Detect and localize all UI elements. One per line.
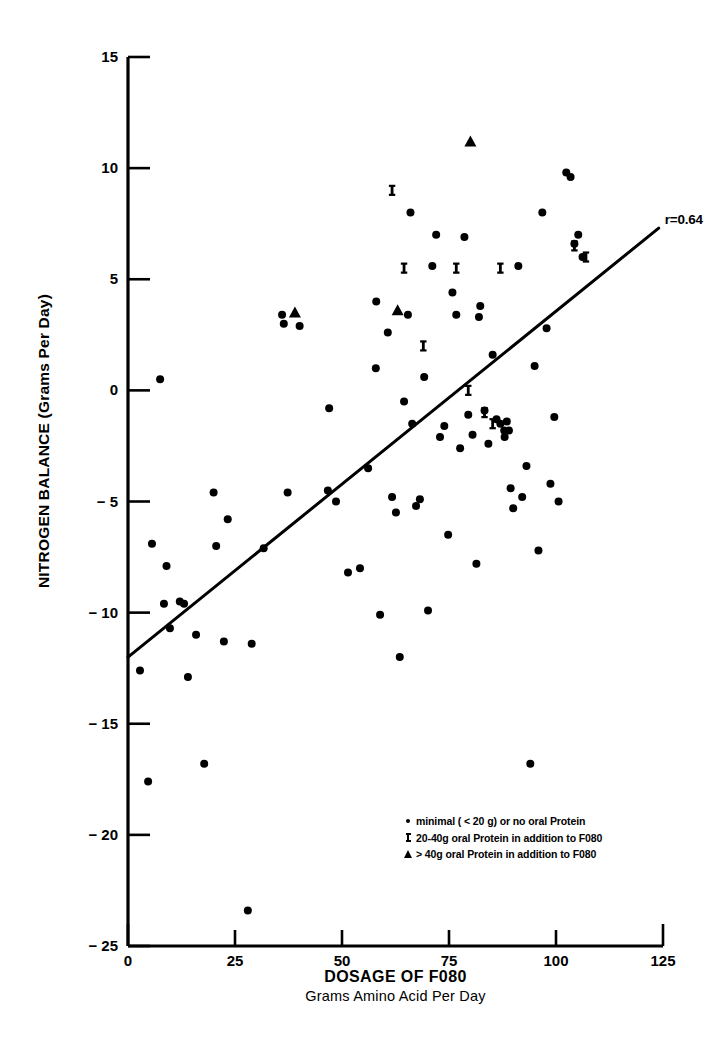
x-tick-label: 125: [633, 952, 693, 969]
x-tick-label: 0: [98, 952, 158, 969]
regression-line: [128, 228, 659, 657]
data-point-dot: [148, 540, 156, 548]
data-point-dot: [440, 422, 448, 430]
data-point-dot: [376, 611, 384, 619]
data-point-dot: [546, 480, 554, 488]
data-point-dot: [384, 329, 392, 337]
data-point-x: [420, 340, 426, 351]
data-point-x: [401, 263, 407, 274]
data-point-dot: [526, 760, 534, 768]
data-point-dot: [388, 493, 396, 501]
x-tick-label: 25: [205, 952, 265, 969]
data-point-dot: [484, 440, 492, 448]
data-point-dot: [476, 302, 484, 310]
data-point-dot: [400, 397, 408, 405]
correlation-annotation: r=0.64: [665, 212, 703, 227]
data-point-dot: [166, 624, 174, 632]
legend-x-icon: [400, 833, 416, 842]
y-tick-label: 5: [40, 270, 118, 287]
data-point-dot: [432, 231, 440, 239]
data-point-dot: [538, 209, 546, 217]
data-point-dot: [460, 233, 468, 241]
data-point-triangle: [289, 307, 301, 318]
data-point-x: [489, 418, 495, 429]
data-point-dot: [531, 362, 539, 370]
legend-label-dot: minimal ( < 20 g) or no oral Protein: [416, 815, 585, 827]
data-point-dot: [501, 433, 509, 441]
data-point-triangle: [392, 304, 404, 315]
data-point-dot: [356, 564, 364, 572]
data-point-dot: [420, 373, 428, 381]
data-point-dot: [567, 173, 575, 181]
data-point-x: [497, 263, 503, 274]
legend-item-x: 20-40g oral Protein in addition to F080: [400, 831, 602, 846]
y-tick-label: 0: [40, 381, 118, 398]
data-point-dot: [452, 311, 460, 319]
x-tick-label: 50: [312, 952, 372, 969]
y-tick-label: − 20: [40, 826, 118, 843]
data-point-dot: [332, 498, 340, 506]
data-point-dot: [574, 231, 582, 239]
y-tick-label: 15: [40, 48, 118, 65]
data-point-dot: [244, 906, 252, 914]
data-point-dot: [296, 322, 304, 330]
data-point-dot: [550, 413, 558, 421]
data-point-dot: [416, 495, 424, 503]
data-point-dot: [180, 600, 188, 608]
data-point-dot: [163, 562, 171, 570]
data-point-dot: [444, 531, 452, 539]
data-point-dot: [489, 351, 497, 359]
data-point-dot: [475, 313, 483, 321]
data-point-dot: [260, 544, 268, 552]
y-tick-label: − 5: [40, 493, 118, 510]
data-point-dot: [534, 546, 542, 554]
legend-item-dot: minimal ( < 20 g) or no oral Protein: [400, 814, 602, 829]
data-point-dot: [325, 404, 333, 412]
y-tick-label: − 15: [40, 715, 118, 732]
data-point-dot: [396, 653, 404, 661]
data-point-dot: [224, 515, 232, 523]
data-point-dot: [404, 311, 412, 319]
data-point-dot: [456, 444, 464, 452]
data-point-dot: [503, 417, 511, 425]
data-point-dot: [278, 311, 286, 319]
data-point-dot: [428, 262, 436, 270]
data-point-dot: [324, 486, 332, 494]
data-point-dot: [200, 760, 208, 768]
legend: minimal ( < 20 g) or no oral Protein 20-…: [400, 814, 602, 864]
data-point-dot: [372, 364, 380, 372]
data-point-dot: [555, 498, 563, 506]
data-point-dot: [280, 320, 288, 328]
data-point-dot: [220, 638, 228, 646]
x-axis-ticks: [128, 924, 663, 946]
data-point-x: [453, 263, 459, 274]
data-point-dot: [372, 297, 380, 305]
data-points: [136, 135, 589, 914]
legend-triangle-icon: [400, 850, 416, 858]
data-point-dot: [436, 433, 444, 441]
trendline: [128, 228, 659, 657]
data-point-dot: [184, 673, 192, 681]
data-point-x: [465, 385, 471, 396]
legend-label-triangle: > 40g oral Protein in addition to F080: [416, 848, 596, 860]
axes: [128, 57, 663, 946]
data-point-dot: [464, 411, 472, 419]
legend-label-x: 20-40g oral Protein in addition to F080: [416, 832, 602, 844]
data-point-dot: [406, 209, 414, 217]
data-point-dot: [522, 462, 530, 470]
x-axis-subtitle: Grams Amino Acid Per Day: [128, 988, 663, 1004]
data-point-dot: [408, 420, 416, 428]
data-point-dot: [210, 489, 218, 497]
legend-dot-icon: [400, 819, 416, 823]
y-tick-label: 10: [40, 159, 118, 176]
x-axis-title: DOSAGE OF F080: [128, 968, 663, 986]
data-point-dot: [448, 289, 456, 297]
data-point-dot: [192, 631, 200, 639]
data-point-dot: [424, 606, 432, 614]
x-tick-label: 100: [526, 952, 586, 969]
data-point-x: [389, 185, 395, 196]
data-point-dot: [144, 778, 152, 786]
legend-item-triangle: > 40g oral Protein in addition to F080: [400, 847, 602, 862]
y-axis-ticks: [128, 57, 150, 946]
data-point-dot: [344, 569, 352, 577]
